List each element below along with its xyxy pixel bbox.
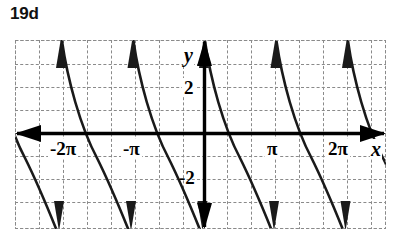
x-axis-label: x [370, 139, 382, 159]
x-tick-label-neg-pi: -π [121, 139, 142, 158]
x-tick-label-neg-2pi: -2π [48, 139, 78, 158]
cotangent-graph [15, 40, 386, 229]
y-axis-label: y [183, 45, 194, 65]
graph-canvas [15, 40, 386, 229]
y-tick-label-neg-2: -2 [177, 168, 197, 187]
x-tick-label-2pi: 2π [326, 139, 350, 158]
y-tick-label-2: 2 [182, 78, 196, 97]
page-title: 19d [10, 4, 39, 24]
x-tick-label-pi: π [265, 139, 279, 158]
